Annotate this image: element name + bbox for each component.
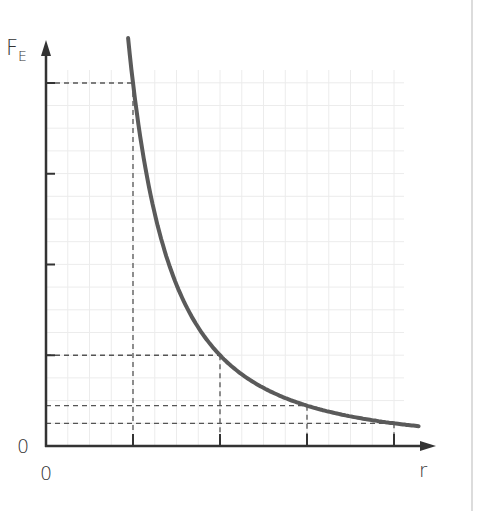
- page-border: [471, 0, 473, 511]
- y-origin-label: 0: [17, 435, 29, 457]
- inverse-square-chart: [0, 0, 477, 511]
- grid: [46, 70, 404, 446]
- x-axis: [45, 441, 436, 451]
- y-axis: [41, 40, 51, 447]
- force-curve: [128, 38, 419, 426]
- x-axis-label: r: [419, 458, 427, 482]
- y-axis-arrow-icon: [41, 40, 51, 56]
- y-axis-label-sub: E: [18, 48, 27, 64]
- x-origin-label: 0: [40, 462, 52, 484]
- x-axis-arrow-icon: [420, 441, 436, 451]
- y-axis-label-main: F: [6, 36, 18, 60]
- y-axis-label: FE: [6, 36, 27, 60]
